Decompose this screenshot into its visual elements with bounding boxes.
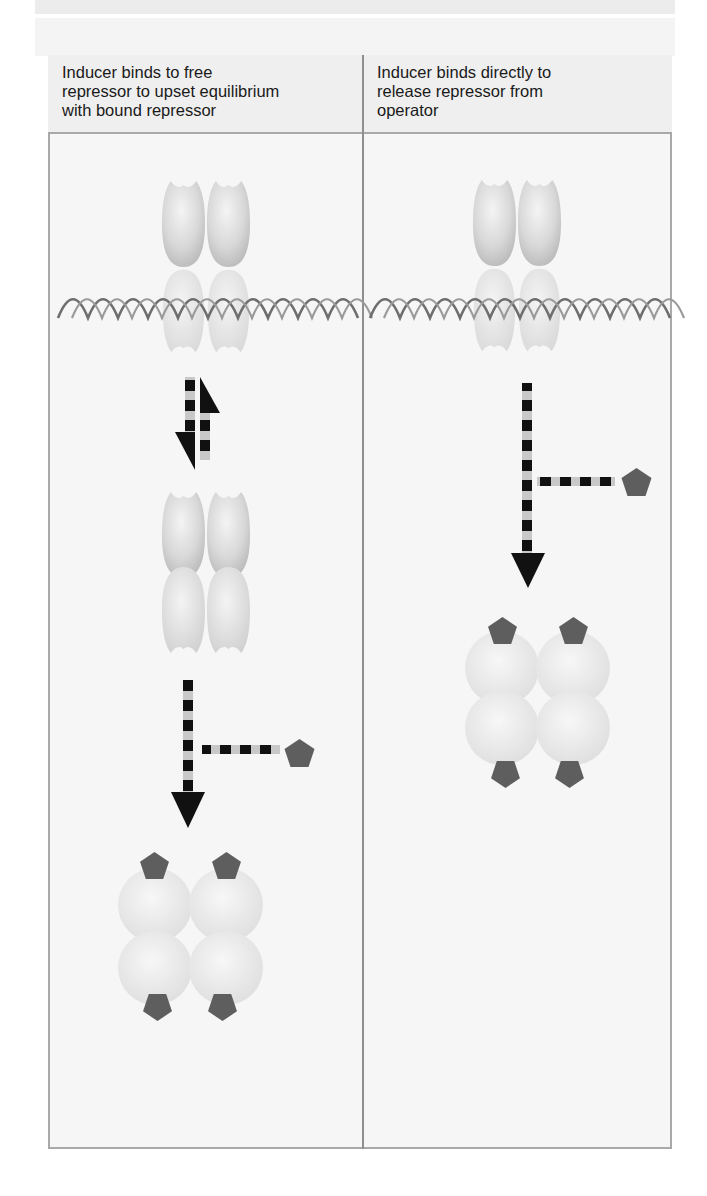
left-free-repressor — [162, 492, 250, 653]
right-inducer-icon — [622, 468, 652, 496]
right-inducer-repressor-complex — [465, 617, 610, 788]
left-inducer-repressor-complex — [118, 852, 263, 1021]
left-equilibrium-arrows — [175, 377, 220, 470]
left-inducer-binding-arrow — [171, 680, 280, 828]
diagram-artwork — [0, 0, 707, 1196]
right-repressor-top — [473, 180, 561, 266]
left-repressor-top — [162, 181, 250, 267]
left-inducer-icon — [285, 739, 315, 767]
right-inducer-binding-arrow — [511, 383, 615, 588]
